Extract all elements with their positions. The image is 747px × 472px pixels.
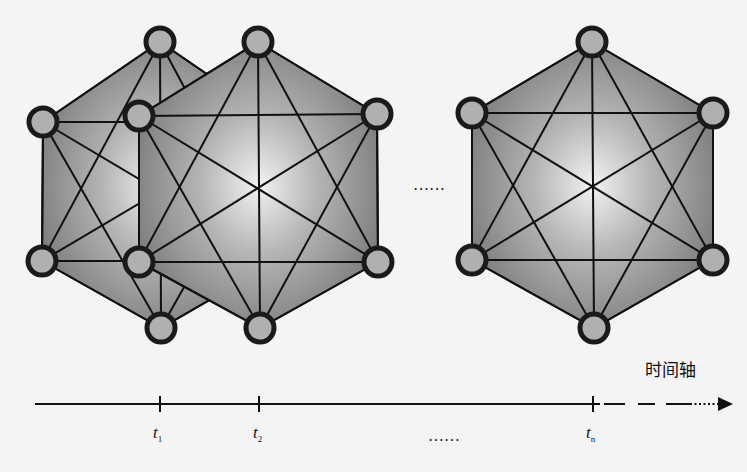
- snapshot-tn: [458, 28, 727, 342]
- node: [458, 246, 486, 274]
- node: [244, 28, 272, 56]
- snapshot-ellipsis: ……: [413, 176, 445, 194]
- arrow-head-icon: [718, 397, 733, 411]
- node: [363, 100, 391, 128]
- node: [147, 314, 175, 342]
- tick-label-tn: tn: [586, 423, 595, 444]
- node: [699, 246, 727, 274]
- node: [246, 314, 274, 342]
- node: [125, 102, 153, 130]
- node: [578, 28, 606, 56]
- tick-sub: n: [591, 434, 596, 444]
- snapshot-layer: [28, 28, 727, 342]
- time-axis: [35, 396, 733, 412]
- node: [458, 99, 486, 127]
- node: [28, 247, 56, 275]
- node: [146, 28, 174, 56]
- node: [364, 248, 392, 276]
- tick-sub: 2: [258, 434, 263, 444]
- node: [699, 99, 727, 127]
- axis-title: 时间轴: [645, 356, 696, 381]
- network-diagram: [0, 0, 747, 472]
- tick-sub: 1: [158, 434, 163, 444]
- node: [29, 108, 57, 136]
- node: [580, 314, 608, 342]
- tick-label-t2: t2: [253, 423, 262, 444]
- axis-ellipsis: ……: [428, 427, 460, 445]
- node: [125, 248, 153, 276]
- tick-label-t1: t1: [153, 423, 162, 444]
